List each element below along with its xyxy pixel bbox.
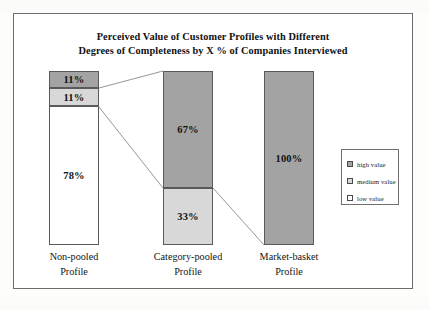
legend-label: low value bbox=[357, 195, 384, 202]
bar-segment-low[interactable]: 78% bbox=[49, 106, 99, 245]
bar-category-pooled-profile[interactable]: 67% 33% bbox=[163, 71, 213, 245]
category-label-market-basket-profile: Market-basket Profile bbox=[229, 250, 349, 279]
chart-page: Perceived Value of Customer Profiles wit… bbox=[0, 0, 429, 310]
segment-value-label: 11% bbox=[63, 74, 84, 85]
chart-frame: Perceived Value of Customer Profiles wit… bbox=[13, 13, 413, 289]
chart-legend: high value medium value low value bbox=[341, 149, 399, 205]
category-label-line-2: Profile bbox=[229, 265, 349, 280]
category-label-line-2: Profile bbox=[14, 265, 134, 280]
bar-segment-high[interactable]: 100% bbox=[264, 71, 314, 245]
bar-segment-medium[interactable]: 11% bbox=[49, 88, 99, 106]
segment-value-label: 78% bbox=[63, 170, 85, 181]
legend-label: high value bbox=[357, 161, 386, 168]
bar-non-pooled-profile[interactable]: 11% 11% 78% bbox=[49, 71, 99, 245]
legend-swatch-low-value-icon bbox=[347, 195, 353, 201]
legend-swatch-medium-value-icon bbox=[347, 178, 353, 184]
plot-area: 11% 11% 78% 67% 33% bbox=[14, 14, 414, 290]
segment-value-label: 100% bbox=[275, 153, 302, 164]
segment-value-label: 67% bbox=[177, 124, 199, 135]
segment-value-label: 33% bbox=[177, 211, 199, 222]
category-label-line-1: Non-pooled bbox=[14, 250, 134, 265]
page-margin-top bbox=[0, 0, 429, 13]
bar-segment-medium[interactable]: 33% bbox=[163, 188, 213, 245]
page-margin-bottom bbox=[0, 297, 429, 310]
bar-segment-high[interactable]: 11% bbox=[49, 71, 99, 88]
segment-value-label: 11% bbox=[63, 92, 84, 103]
legend-item-medium-value[interactable]: medium value bbox=[347, 173, 398, 189]
legend-item-high-value[interactable]: high value bbox=[347, 156, 398, 172]
bar-segment-high[interactable]: 67% bbox=[163, 71, 213, 188]
category-label-non-pooled-profile: Non-pooled Profile bbox=[14, 250, 134, 279]
legend-swatch-high-value-icon bbox=[347, 161, 353, 167]
legend-label: medium value bbox=[357, 178, 396, 185]
category-label-line-1: Market-basket bbox=[229, 250, 349, 265]
bar-market-basket-profile[interactable]: 100% bbox=[264, 71, 314, 245]
legend-item-low-value[interactable]: low value bbox=[347, 190, 398, 206]
